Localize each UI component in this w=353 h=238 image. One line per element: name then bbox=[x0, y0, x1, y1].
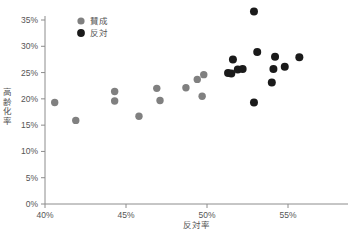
legend-group: 賛成 反対 bbox=[77, 16, 108, 38]
y-axis-title: 高齢化率 bbox=[2, 88, 13, 126]
data-point bbox=[250, 8, 258, 16]
y-axis-ticks: 0%5%10%15%20%25%30%35% bbox=[21, 15, 45, 209]
x-axis-title: 反対率 bbox=[183, 220, 210, 230]
data-points-layer bbox=[51, 8, 303, 125]
data-point bbox=[135, 113, 142, 120]
y-tick-label: 0% bbox=[26, 199, 39, 209]
data-point bbox=[72, 117, 79, 124]
y-tick-label: 15% bbox=[21, 120, 38, 130]
x-tick-label: 45% bbox=[117, 210, 134, 220]
x-tick-label: 55% bbox=[279, 210, 296, 220]
axis-group bbox=[45, 16, 348, 204]
data-point bbox=[271, 53, 279, 61]
x-axis-ticks: 40%45%50%55% bbox=[36, 204, 296, 220]
data-point bbox=[153, 85, 160, 92]
y-tick-label: 10% bbox=[21, 146, 38, 156]
data-point bbox=[156, 97, 163, 104]
data-point bbox=[229, 55, 237, 63]
legend-marker-hantai bbox=[77, 29, 85, 37]
y-tick-label: 5% bbox=[26, 173, 39, 183]
data-point bbox=[250, 99, 258, 107]
data-point bbox=[200, 71, 207, 78]
data-point bbox=[198, 93, 205, 100]
legend-label-hantai: 反対 bbox=[90, 28, 108, 38]
y-tick-label: 30% bbox=[21, 41, 38, 51]
data-point bbox=[239, 65, 247, 73]
data-point bbox=[51, 99, 58, 106]
data-point bbox=[268, 79, 276, 87]
legend-label-sansei: 賛成 bbox=[90, 16, 108, 26]
y-tick-label: 20% bbox=[21, 94, 38, 104]
data-point bbox=[194, 76, 201, 83]
x-tick-label: 50% bbox=[198, 210, 215, 220]
y-axis-title-char: 率 bbox=[2, 117, 13, 127]
y-tick-label: 35% bbox=[21, 15, 38, 25]
data-point bbox=[182, 84, 189, 91]
data-point bbox=[111, 88, 118, 95]
x-tick-label: 40% bbox=[36, 210, 53, 220]
data-point bbox=[281, 63, 289, 71]
chart-plot-area: 0%5%10%15%20%25%30%35% 40%45%50%55% 賛成 反… bbox=[0, 0, 353, 238]
scatter-chart: 0%5%10%15%20%25%30%35% 40%45%50%55% 賛成 反… bbox=[0, 0, 353, 238]
data-point bbox=[111, 97, 118, 104]
data-point bbox=[295, 53, 303, 61]
data-point bbox=[269, 65, 277, 73]
y-tick-label: 25% bbox=[21, 68, 38, 78]
data-point bbox=[253, 48, 261, 56]
legend-marker-sansei bbox=[77, 17, 84, 24]
